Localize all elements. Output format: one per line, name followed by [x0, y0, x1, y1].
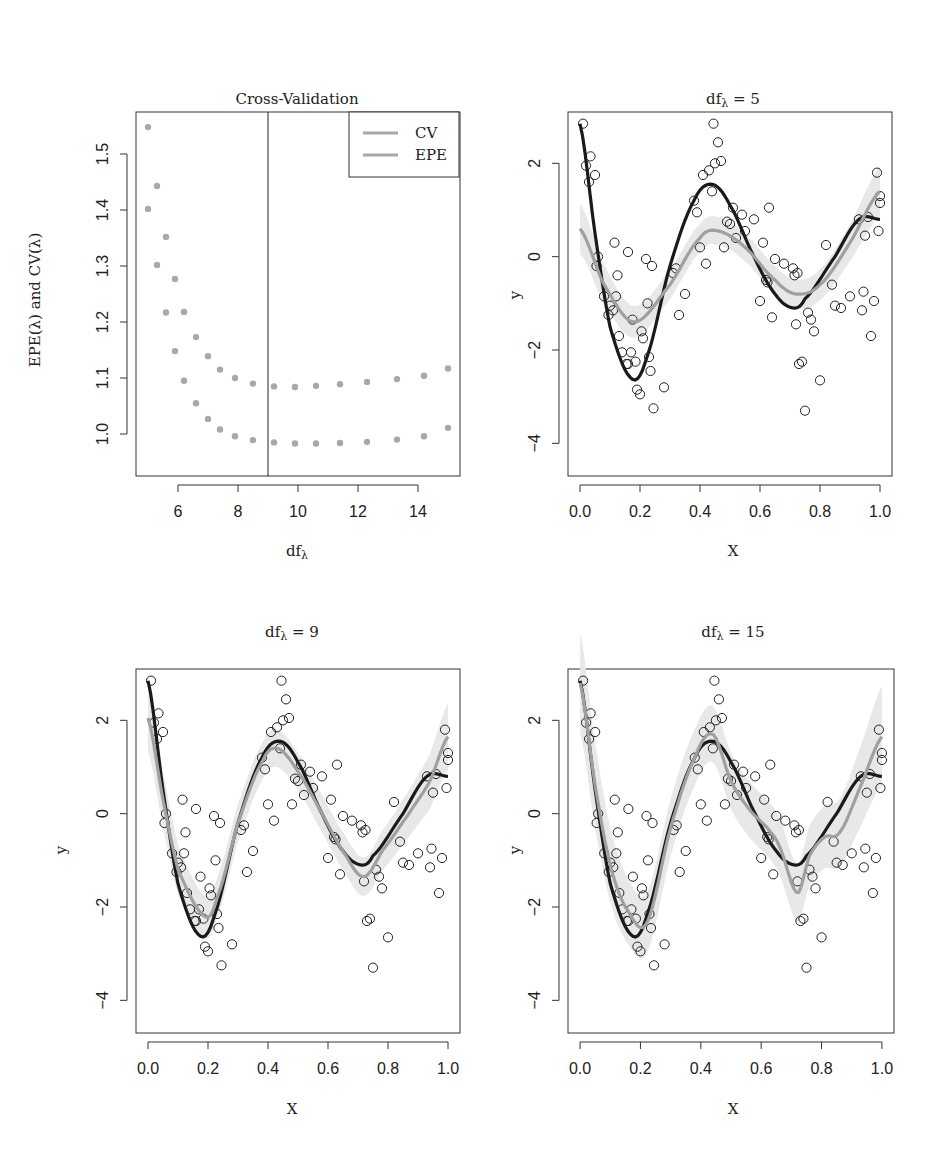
x-axis-label: X	[728, 1100, 739, 1118]
series-epe	[145, 206, 451, 447]
y-axis: 1.01.11.21.31.41.5	[94, 143, 127, 445]
y-tick-label: −2	[526, 898, 543, 916]
y-axis-label: EPE(λ) and CV(λ)	[26, 233, 44, 367]
x-tick-label: 8	[234, 503, 243, 520]
x-tick-label: 0.0	[569, 503, 591, 520]
panel-df-15: dfλ = 15 0.00.20.40.60.81.0−4−202 X y	[506, 623, 894, 1118]
y-tick-label: −4	[526, 434, 543, 452]
x-tick-label: 0.4	[257, 1060, 279, 1077]
panel-df-5: dfλ = 5 0.00.20.40.60.81.0−4−202 X y	[506, 90, 892, 560]
x-axis-label: dfλ	[286, 542, 308, 562]
legend: CV EPE	[349, 112, 459, 177]
x-tick-label: 1.0	[871, 1060, 893, 1077]
x-tick-label: 0.6	[750, 1060, 772, 1077]
y-axis-label: y	[506, 845, 524, 855]
y-tick-label: 0	[94, 809, 111, 818]
x-axis: 0.00.20.40.60.81.0	[569, 485, 891, 520]
x-tick-label: 1.0	[869, 503, 891, 520]
x-tick-label: 1.0	[437, 1060, 459, 1077]
y-tick-label: −4	[526, 991, 543, 1009]
y-tick-label: −4	[94, 991, 111, 1009]
x-tick-label: 10	[289, 503, 307, 520]
y-axis: −4−202	[526, 159, 559, 453]
panel-title: Cross-Validation	[235, 90, 358, 108]
x-tick-label: 12	[349, 503, 367, 520]
plot-frame	[136, 669, 460, 1033]
panel-df-9: dfλ = 9 0.00.20.40.60.81.0−4−202 X y	[52, 623, 460, 1118]
x-axis: 0.00.20.40.60.81.0	[569, 1042, 893, 1077]
x-tick-label: 0.8	[377, 1060, 399, 1077]
y-axis: −4−202	[94, 716, 127, 1010]
x-tick-label: 0.0	[137, 1060, 159, 1077]
legend-epe: EPE	[415, 146, 447, 164]
y-tick-label: 1.1	[94, 367, 111, 389]
x-tick-label: 0.6	[317, 1060, 339, 1077]
panel-title: dfλ = 5	[706, 90, 760, 110]
y-tick-label: −2	[94, 898, 111, 916]
x-tick-label: 0.2	[629, 503, 651, 520]
x-tick-label: 0.8	[809, 503, 831, 520]
y-tick-label: 1.5	[94, 143, 111, 165]
x-axis-label: X	[287, 1100, 298, 1118]
confidence-band	[580, 166, 880, 338]
y-axis-label: y	[506, 290, 524, 300]
y-tick-label: 1.4	[94, 199, 111, 221]
x-tick-label: 0.8	[810, 1060, 832, 1077]
y-tick-label: 1.2	[94, 311, 111, 333]
y-tick-label: 1.3	[94, 255, 111, 277]
y-tick-label: 1.0	[94, 423, 111, 445]
y-tick-label: 2	[526, 716, 543, 725]
y-tick-label: 2	[526, 159, 543, 168]
x-tick-label: 0.4	[690, 1060, 712, 1077]
y-tick-label: −2	[526, 341, 543, 359]
y-tick-label: 0	[526, 252, 543, 261]
panel-title: dfλ = 15	[701, 623, 764, 643]
y-axis-label: y	[52, 845, 70, 855]
panel-cross-validation: Cross-Validation 681012141.01.11.21.31.4…	[26, 90, 460, 562]
y-axis: −4−202	[526, 716, 559, 1010]
x-axis: 68101214	[174, 485, 427, 520]
x-tick-label: 6	[174, 503, 183, 520]
x-tick-label: 0.6	[749, 503, 771, 520]
legend-cv: CV	[415, 124, 438, 142]
x-tick-label: 0.2	[197, 1060, 219, 1077]
x-axis-label: X	[728, 542, 739, 560]
panel-title: dfλ = 9	[265, 623, 319, 643]
x-tick-label: 0.4	[689, 503, 711, 520]
figure: Cross-Validation 681012141.01.11.21.31.4…	[0, 0, 946, 1163]
y-tick-label: 2	[94, 716, 111, 725]
x-tick-label: 0.2	[629, 1060, 651, 1077]
x-axis: 0.00.20.40.60.81.0	[137, 1042, 459, 1077]
x-tick-label: 14	[409, 503, 427, 520]
x-tick-label: 0.0	[569, 1060, 591, 1077]
y-tick-label: 0	[526, 809, 543, 818]
